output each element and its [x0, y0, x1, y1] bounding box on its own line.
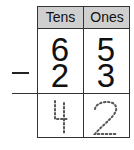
subtrahend-tens: 2	[38, 59, 82, 92]
header-ones: Ones	[84, 7, 130, 28]
header-tens: Tens	[38, 7, 83, 28]
place-value-table: Tens Ones 6 5 2 3 4 2	[37, 6, 130, 138]
subtrahend-ones: 3	[84, 59, 128, 92]
dotted-four-icon	[38, 97, 82, 137]
minus-sign	[12, 72, 29, 74]
answer-tens-dotted	[38, 97, 82, 143]
sum-line	[12, 93, 130, 94]
answer-ones-dotted	[84, 97, 128, 143]
dotted-two-icon	[84, 97, 128, 137]
